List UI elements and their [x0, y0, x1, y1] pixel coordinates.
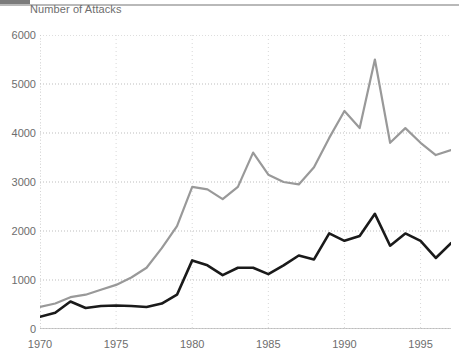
y-axis-tick-label: 2000: [12, 225, 36, 237]
x-axis-tick-label: 1970: [28, 338, 52, 350]
x-axis-tick-label: 1980: [180, 338, 204, 350]
chart-title: Number of Attacks: [30, 3, 122, 15]
plot-area: [40, 35, 451, 329]
x-axis-tick-label: 1985: [256, 338, 280, 350]
x-axis-tick-label: 1995: [408, 338, 432, 350]
y-axis-tick-label: 5000: [12, 78, 36, 90]
y-axis-tick-label: 6000: [12, 29, 36, 41]
y-axis-tick-label: 4000: [12, 127, 36, 139]
chart-screenshot: Number of Attacks 0100020003000400050006…: [0, 0, 459, 352]
y-axis-labels: 0100020003000400050006000: [0, 0, 36, 352]
y-axis-tick-label: 3000: [12, 176, 36, 188]
x-axis-tick-label: 1975: [104, 338, 128, 350]
series-line-lethal-attacks: [40, 214, 451, 317]
y-axis-tick-label: 0: [30, 323, 36, 335]
x-axis-tick-label: 1990: [332, 338, 356, 350]
series-line-total-attacks: [40, 60, 451, 307]
line-chart: [40, 35, 451, 329]
y-axis-tick-label: 1000: [12, 274, 36, 286]
